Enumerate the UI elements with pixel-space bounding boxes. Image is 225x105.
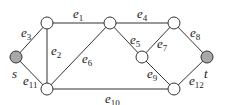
label-e8: e8	[190, 25, 201, 42]
node-c	[104, 17, 116, 29]
node-b	[41, 83, 53, 95]
label-e6: e6	[82, 51, 93, 68]
label-e7: e7	[157, 36, 168, 53]
label-e4: e4	[137, 6, 148, 23]
graph-diagram: s t e1 e2 e3 e4 e5 e6 e7 e8 e9 e10 e11 e…	[0, 0, 225, 105]
node-t	[201, 51, 213, 63]
label-e11: e11	[23, 73, 37, 90]
node-e	[136, 51, 148, 63]
label-e9: e9	[147, 66, 158, 83]
node-d	[168, 17, 180, 29]
node-f	[168, 83, 180, 95]
label-s: s	[12, 66, 17, 81]
edges	[16, 23, 207, 89]
node-s	[10, 51, 22, 63]
label-e3: e3	[21, 25, 32, 42]
label-t: t	[204, 66, 208, 81]
label-e10: e10	[105, 91, 120, 105]
label-e5: e5	[130, 32, 141, 49]
node-a	[41, 17, 53, 29]
label-e2: e2	[51, 43, 61, 60]
label-e12: e12	[189, 73, 204, 90]
nodes	[10, 17, 213, 95]
label-e1: e1	[73, 6, 83, 23]
